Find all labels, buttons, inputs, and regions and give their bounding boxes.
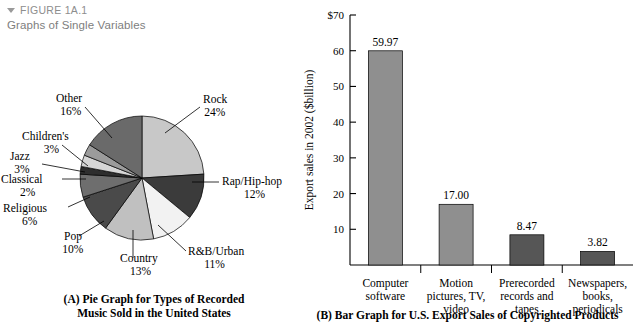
pie-slice-value: 11% bbox=[204, 258, 225, 270]
bar bbox=[510, 235, 544, 265]
panel-b-bar-chart: 102030405060$70 59.9717.008.473.82 Compu… bbox=[300, 0, 635, 310]
y-axis-title: Export sales in 2002 ($billion) bbox=[303, 70, 316, 211]
panel-a-pie-chart: Rock24%Rap/Hip-hop12%R&B/Urban11%Country… bbox=[0, 55, 305, 295]
x-axis-category-label: software bbox=[366, 290, 406, 302]
caption-panel-b: (B) Bar Graph for U.S. Export Sales of C… bbox=[300, 309, 635, 323]
bar bbox=[581, 251, 615, 265]
pie-leader-line bbox=[79, 221, 104, 236]
pie-slices-group bbox=[80, 116, 204, 240]
pie-slice-value: 24% bbox=[204, 106, 226, 118]
pie-slice-label: Rap/Hip-hop bbox=[222, 175, 282, 188]
bar-svg: 102030405060$70 59.9717.008.473.82 Compu… bbox=[300, 0, 635, 310]
y-axis-tick-label: $70 bbox=[328, 9, 345, 21]
caption-panel-a-line2: Music Sold in the United States bbox=[14, 307, 294, 321]
pie-slice-label: Children's bbox=[22, 130, 69, 142]
bar-value-label: 8.47 bbox=[517, 220, 537, 232]
pie-slice-label: Country bbox=[120, 252, 158, 265]
pie-slice-label: Jazz bbox=[10, 150, 30, 162]
pie-slice-label: Other bbox=[56, 92, 82, 104]
pie-slice-label: R&B/Urban bbox=[188, 245, 244, 257]
bar bbox=[439, 204, 473, 265]
caption-panel-a-line1: (A) Pie Graph for Types of Recorded bbox=[14, 293, 294, 307]
pie-slice-value: 13% bbox=[130, 265, 152, 277]
pie-slice-value: 10% bbox=[62, 243, 84, 255]
figure-root: FIGURE 1A.1 Graphs of Single Variables R… bbox=[0, 0, 635, 325]
bar-value-label: 3.82 bbox=[588, 236, 608, 248]
caption-panel-a: (A) Pie Graph for Types of Recorded Musi… bbox=[14, 293, 294, 320]
x-axis-category-label: Newspapers, bbox=[568, 277, 627, 290]
pie-svg: Rock24%Rap/Hip-hop12%R&B/Urban11%Country… bbox=[0, 55, 305, 295]
x-axis-category-label: Prerecorded bbox=[499, 277, 555, 289]
y-axis-tick-label: 50 bbox=[333, 80, 345, 92]
pie-slice-value: 6% bbox=[22, 215, 38, 227]
x-axis-category-label: Motion bbox=[439, 277, 473, 289]
bar-value-labels-group: 59.9717.008.473.82 bbox=[372, 36, 608, 249]
y-axis-tick-label: 30 bbox=[333, 152, 345, 164]
y-axis-tick-label: 60 bbox=[333, 45, 345, 57]
pie-slice-value: 12% bbox=[244, 188, 266, 200]
pie-slice-value: 3% bbox=[14, 163, 30, 175]
pie-leader-line bbox=[165, 107, 200, 133]
pie-slice-value: 3% bbox=[44, 143, 60, 155]
bar bbox=[368, 51, 402, 265]
bar-ytick-labels-group: 102030405060$70 bbox=[328, 9, 345, 235]
pie-slice bbox=[142, 116, 204, 178]
pie-slice-label: Pop bbox=[64, 230, 82, 243]
x-axis-category-label: Computer bbox=[362, 277, 408, 290]
figure-header: FIGURE 1A.1 Graphs of Single Variables bbox=[7, 4, 307, 31]
pie-slice-label: Rock bbox=[203, 93, 228, 105]
figure-number: FIGURE 1A.1 bbox=[20, 4, 87, 16]
triangle-down-icon bbox=[7, 8, 15, 13]
figure-header-line: FIGURE 1A.1 bbox=[7, 4, 307, 16]
figure-title: Graphs of Single Variables bbox=[7, 19, 307, 31]
bar-value-label: 17.00 bbox=[443, 189, 469, 201]
x-axis-category-label: books, bbox=[582, 290, 612, 303]
pie-slice-value: 2% bbox=[20, 186, 36, 198]
y-axis-tick-label: 10 bbox=[333, 223, 345, 235]
bar-value-label: 59.97 bbox=[372, 36, 398, 48]
y-axis-tick-label: 20 bbox=[333, 188, 345, 200]
bar-bars-group bbox=[368, 51, 614, 265]
pie-leader-line bbox=[42, 164, 85, 172]
bar-yaxis-title-group: Export sales in 2002 ($billion) bbox=[303, 70, 316, 211]
x-axis-category-label: pictures, TV, bbox=[427, 290, 486, 303]
pie-slice-value: 16% bbox=[60, 105, 82, 117]
y-axis-tick-label: 40 bbox=[333, 116, 345, 128]
pie-slice-label: Religious bbox=[3, 202, 48, 215]
x-axis-category-label: records and bbox=[500, 290, 554, 302]
